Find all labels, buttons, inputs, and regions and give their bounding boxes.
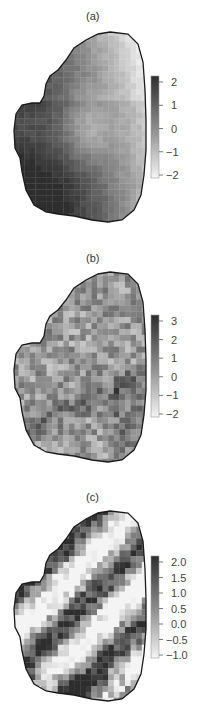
heatmap-cell: [52, 400, 58, 406]
heatmap-cell: [114, 166, 120, 172]
heatmap-cell: [142, 347, 148, 353]
heatmap-cell: [97, 101, 103, 107]
heatmap-cell: [86, 447, 92, 453]
heatmap-cell: [63, 698, 69, 704]
heatmap-cell: [13, 42, 19, 48]
heatmap-cell: [30, 276, 36, 282]
heatmap-cell: [91, 394, 97, 400]
heatmap-cell: [30, 154, 36, 160]
heatmap-cell: [75, 370, 81, 376]
heatmap-cell: [41, 388, 47, 394]
heatmap-cell: [119, 382, 125, 388]
heatmap-cell: [91, 586, 97, 592]
heatmap-cell: [114, 178, 120, 184]
heatmap-cell: [91, 692, 97, 698]
heatmap-cell: [125, 686, 131, 692]
heatmap-cell: [103, 645, 109, 651]
heatmap-cell: [30, 686, 36, 692]
heatmap-cell: [91, 311, 97, 317]
heatmap-cell: [131, 406, 137, 412]
heatmap-cell: [47, 651, 53, 657]
heatmap-cell: [13, 54, 19, 60]
heatmap-cell: [108, 178, 114, 184]
heatmap-cell: [69, 394, 75, 400]
heatmap-cell: [63, 166, 69, 172]
heatmap-cell: [63, 323, 69, 329]
heatmap-cell: [69, 160, 75, 166]
heatmap-cell: [114, 183, 120, 189]
heatmap-cell: [142, 189, 148, 195]
heatmap-cell: [114, 521, 120, 527]
heatmap-cell: [131, 42, 137, 48]
heatmap-cell: [86, 609, 92, 615]
heatmap-cell: [47, 364, 53, 370]
heatmap-cell: [52, 359, 58, 365]
heatmap-cell: [86, 305, 92, 311]
heatmap-cell: [75, 364, 81, 370]
heatmap-b: (b) 3210−1−2: [0, 238, 208, 475]
heatmap-cell: [41, 533, 47, 539]
heatmap-cell: [19, 562, 25, 568]
heatmap-cell: [142, 364, 148, 370]
heatmap-cell: [108, 282, 114, 288]
heatmap-cell: [47, 668, 53, 674]
heatmap-cell: [108, 160, 114, 166]
heatmap-cell: [97, 388, 103, 394]
heatmap-cell: [30, 65, 36, 71]
heatmap-cell: [131, 533, 137, 539]
heatmap-cell: [13, 692, 19, 698]
heatmap-cell: [69, 657, 75, 663]
heatmap-cell: [125, 119, 131, 125]
heatmap-cell: [24, 509, 30, 515]
heatmap-cell: [75, 412, 81, 418]
heatmap-cell: [69, 101, 75, 107]
heatmap-cell: [58, 119, 64, 125]
heatmap-cell: [131, 130, 137, 136]
heatmap-cell: [97, 627, 103, 633]
heatmap-cell: [125, 323, 131, 329]
heatmap-cell: [103, 592, 109, 598]
heatmap-cell: [103, 341, 109, 347]
heatmap-cell: [41, 692, 47, 698]
heatmap-cell: [136, 142, 142, 148]
heatmap-cell: [131, 300, 137, 306]
heatmap-cell: [119, 172, 125, 178]
colorbar-tick-label: −2: [166, 408, 179, 420]
heatmap-cell: [63, 376, 69, 382]
heatmap-cell: [142, 148, 148, 154]
heatmap-cell: [30, 539, 36, 545]
heatmap-cell: [86, 539, 92, 545]
heatmap-cell: [63, 288, 69, 294]
heatmap-cell: [125, 113, 131, 119]
heatmap-cell: [30, 282, 36, 288]
heatmap-cell: [142, 586, 148, 592]
heatmap-cell: [114, 406, 120, 412]
heatmap-cell: [69, 219, 75, 225]
heatmap-cell: [114, 335, 120, 341]
heatmap-cell: [75, 539, 81, 545]
heatmap-cell: [125, 172, 131, 178]
heatmap-cell: [69, 645, 75, 651]
heatmap-cell: [125, 633, 131, 639]
heatmap-cell: [125, 42, 131, 48]
heatmap-cell: [24, 657, 30, 663]
heatmap-cell: [35, 294, 41, 300]
heatmap-cell: [119, 65, 125, 71]
heatmap-cell: [63, 692, 69, 698]
heatmap-cell: [24, 305, 30, 311]
heatmap-cell: [108, 609, 114, 615]
heatmap-cell: [119, 441, 125, 447]
heatmap-cell: [58, 195, 64, 201]
heatmap-cell: [103, 423, 109, 429]
heatmap-cell: [69, 335, 75, 341]
heatmap-cell: [114, 329, 120, 335]
heatmap-cell: [136, 101, 142, 107]
heatmap-cell: [63, 83, 69, 89]
heatmap-cell: [142, 603, 148, 609]
heatmap-cell: [103, 627, 109, 633]
heatmap-cell: [131, 119, 137, 125]
heatmap-cell: [103, 400, 109, 406]
heatmap-cell: [97, 201, 103, 207]
heatmap-cells-a: [13, 30, 148, 225]
heatmap-cell: [30, 300, 36, 306]
